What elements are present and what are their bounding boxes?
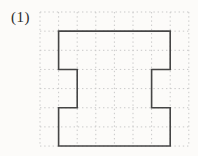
dotted-grid <box>40 12 189 146</box>
figure-panel: (1) <box>0 0 198 156</box>
geometry-figure <box>0 0 198 156</box>
